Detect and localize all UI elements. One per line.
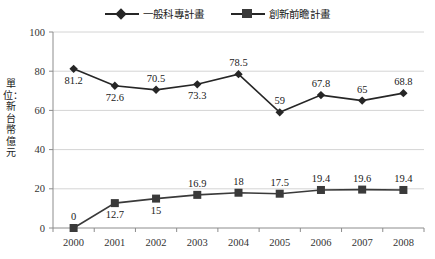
square-marker-icon	[193, 191, 201, 199]
data-label: 59	[274, 95, 285, 106]
data-label: 72.6	[106, 92, 124, 103]
diamond-marker-icon	[69, 65, 77, 73]
data-label: 78.5	[229, 57, 247, 68]
square-marker-icon	[70, 224, 78, 232]
data-label: 67.8	[312, 78, 330, 89]
data-label: 65	[357, 84, 368, 95]
series-value-labels: 81.272.670.573.378.55967.86568.8012.7151…	[64, 57, 413, 222]
diamond-marker-icon	[193, 80, 201, 88]
square-marker-icon	[111, 199, 119, 207]
y-tick-label: 100	[29, 27, 45, 38]
y-tick-label: 60	[35, 105, 46, 116]
square-marker-icon	[358, 186, 366, 194]
data-label: 68.8	[394, 76, 412, 87]
x-tick-label: 2003	[187, 237, 208, 248]
y-axis-ticks: 020406080100	[29, 27, 53, 234]
y-tick-label: 0	[40, 223, 45, 234]
diamond-marker-icon	[111, 82, 119, 90]
x-tick-label: 2000	[63, 237, 84, 248]
x-tick-label: 2004	[228, 237, 250, 248]
square-marker-icon	[317, 186, 325, 194]
y-tick-label: 20	[35, 183, 46, 194]
square-marker-icon	[152, 195, 160, 203]
data-label: 19.4	[312, 173, 331, 184]
y-tick-label: 80	[35, 66, 46, 77]
data-label: 70.5	[147, 73, 165, 84]
diamond-marker-icon	[317, 91, 325, 99]
data-label: 12.7	[106, 209, 124, 220]
data-label: 73.3	[188, 90, 206, 101]
data-label: 15	[151, 205, 162, 216]
x-tick-label: 2007	[352, 237, 373, 248]
data-label: 17.5	[271, 177, 289, 188]
x-tick-label: 2006	[310, 237, 331, 248]
chart-container: 一般科專計畫 創新前瞻計畫 單位：新台幣億元 020406080100 2000…	[0, 0, 435, 259]
data-label: 81.2	[64, 75, 82, 86]
data-label: 0	[71, 211, 76, 222]
y-tick-label: 40	[35, 144, 46, 155]
data-label: 16.9	[188, 178, 206, 189]
square-marker-icon	[399, 186, 407, 194]
x-tick-label: 2005	[269, 237, 290, 248]
x-axis-ticks: 200020012002200320042005200620072008	[53, 228, 424, 248]
diamond-marker-icon	[399, 89, 407, 97]
plot-area: 020406080100 200020012002200320042005200…	[0, 0, 435, 259]
data-label: 19.6	[353, 173, 371, 184]
data-label: 18	[233, 176, 244, 187]
x-tick-label: 2001	[104, 237, 125, 248]
diamond-marker-icon	[358, 96, 366, 104]
x-tick-label: 2002	[146, 237, 167, 248]
square-marker-icon	[235, 189, 243, 197]
square-marker-icon	[276, 190, 284, 198]
data-label: 19.4	[394, 173, 413, 184]
gridlines	[53, 32, 424, 189]
diamond-marker-icon	[152, 86, 160, 94]
x-tick-label: 2008	[393, 237, 414, 248]
